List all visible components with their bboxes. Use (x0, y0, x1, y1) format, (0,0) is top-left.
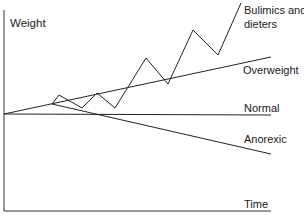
line-anorexic (52, 104, 271, 154)
line-normal (4, 114, 271, 115)
label-bulimics-line1: Bulimics and (244, 4, 304, 17)
label-bulimics-line2: dieters (244, 18, 277, 31)
label-normal: Normal (244, 102, 279, 115)
x-axis-label: Time (244, 198, 268, 211)
y-axis-label: Weight (10, 17, 46, 30)
line-overweight (4, 57, 271, 114)
label-overweight: Overweight (243, 64, 299, 77)
weight-time-chart: Weight Time Bulimics and dieters Overwei… (0, 0, 304, 221)
label-anorexic: Anorexic (244, 133, 287, 146)
line-bulimics-dieters (52, 3, 241, 108)
